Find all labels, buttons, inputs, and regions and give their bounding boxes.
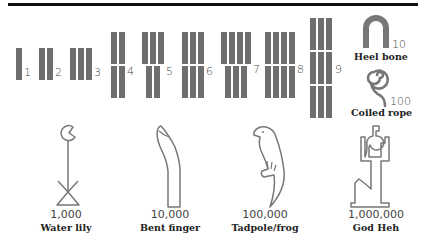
stroke-bar [78,48,84,80]
top-rule [8,3,418,6]
stroke-bar [182,66,188,98]
numeral-label: 4 [127,66,134,77]
stroke-bar [318,86,324,118]
numeral-label: 8 [297,64,304,75]
stroke-bar [318,18,324,50]
numeral-label: 3 [94,67,101,78]
heel-bone-icon [362,14,390,50]
stroke-bar [190,32,196,64]
stroke-bar [310,52,316,84]
water-lily-value: 1,000 [40,209,92,220]
stroke-bar [198,32,204,64]
stroke-bar [326,86,332,118]
numeral-label: 9 [335,64,342,75]
stroke-bar [142,32,148,64]
bent-finger-label: Bent finger [130,223,210,233]
stroke-bar [39,48,45,80]
stroke-bar [326,52,332,84]
stroke-bar [86,48,92,80]
numeral-label: 5 [166,66,173,77]
stroke-bar [233,66,239,98]
stroke-bar [146,66,152,98]
stroke-bar [326,18,332,50]
stroke-bar [225,66,231,98]
stroke-bar [273,32,279,64]
stroke-bar [273,66,279,98]
stroke-bar [111,66,117,98]
numeral-label: 2 [55,67,62,78]
god-heh-label: God Heh [336,223,416,233]
stroke-bar [119,66,125,98]
stroke-bar [70,48,76,80]
stroke-bar [265,66,271,98]
stroke-bar [289,32,295,64]
tadpole-frog-value: 100,000 [235,209,295,220]
numeral-label: 7 [253,64,260,75]
stroke-bar [281,66,287,98]
stroke-bar [265,32,271,64]
tadpole-frog-icon [250,123,290,209]
bent-finger-icon [155,123,185,209]
stroke-bar [221,32,227,64]
stroke-bar [245,32,251,64]
stroke-bar [111,32,117,64]
stroke-bar [310,18,316,50]
stroke-bar [318,52,324,84]
stroke-bar [281,32,287,64]
numeral-label: 1 [24,67,31,78]
stroke-bar [289,66,295,98]
stroke-bar [150,32,156,64]
stroke-bar [16,48,22,80]
stroke-bar [229,32,235,64]
stroke-bar [310,86,316,118]
stroke-bar [182,32,188,64]
stroke-bar [190,66,196,98]
numeral-label: 6 [206,66,213,77]
tadpole-frog-label: Tadpole/frog [222,223,308,233]
stroke-bar [241,66,247,98]
stroke-bar [237,32,243,64]
coiled-rope-label: Coiled rope [351,108,412,118]
water-lily-label: Water lily [28,223,104,233]
heel-bone-label: Heel bone [354,52,408,62]
stroke-bar [198,66,204,98]
water-lily-icon [52,123,88,207]
bent-finger-value: 10,000 [144,209,196,220]
stroke-bar [158,32,164,64]
coiled-rope-value: 100 [390,96,411,107]
god-heh-icon [347,123,403,209]
stroke-bar [154,66,160,98]
stroke-bar [47,48,53,80]
heel-bone-value: 10 [392,39,406,50]
god-heh-value: 1,000,000 [340,209,412,220]
stroke-bar [119,32,125,64]
